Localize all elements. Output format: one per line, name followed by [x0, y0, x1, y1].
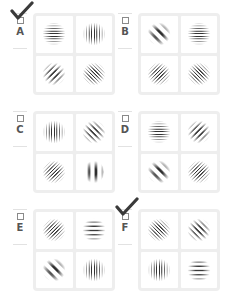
- option-d[interactable]: D: [118, 111, 228, 201]
- gabor-patch-icon: [42, 218, 66, 242]
- stimulus-cell: [36, 212, 73, 249]
- stimulus-cell: [36, 114, 73, 151]
- gabor-patch-icon: [82, 62, 106, 86]
- option-letter: A: [16, 26, 24, 38]
- gabor-patch-icon: [84, 159, 104, 185]
- stimulus-cell: [181, 16, 218, 53]
- gabor-patch-icon: [187, 258, 211, 282]
- gabor-patch-icon: [147, 218, 171, 242]
- gabor-patch-icon: [147, 160, 171, 184]
- stimulus-cell: [181, 212, 218, 249]
- option-checkbox[interactable]: [122, 213, 129, 220]
- gabor-patch-icon: [82, 120, 106, 144]
- stimulus-cell: [76, 16, 113, 53]
- gabor-patch-icon: [147, 22, 171, 46]
- gabor-patch-icon: [42, 62, 66, 86]
- stimulus-cell: [181, 56, 218, 93]
- option-checkbox[interactable]: [17, 115, 24, 122]
- gabor-patch-icon: [82, 22, 106, 46]
- option-checkbox[interactable]: [122, 17, 129, 24]
- option-letter: F: [122, 222, 129, 234]
- gabor-patch-icon: [147, 120, 171, 144]
- option-label: A: [13, 13, 27, 49]
- option-label: F: [118, 209, 132, 245]
- stimulus-cell: [141, 252, 178, 289]
- option-letter: E: [17, 222, 24, 234]
- stimulus-grid[interactable]: [138, 111, 220, 193]
- option-checkbox[interactable]: [17, 17, 24, 24]
- gabor-patch-icon: [187, 218, 211, 242]
- gabor-patch-icon: [187, 120, 211, 144]
- stimulus-cell: [141, 212, 178, 249]
- stimulus-grid[interactable]: [33, 13, 115, 95]
- option-e[interactable]: E: [13, 209, 123, 295]
- option-a[interactable]: A: [13, 13, 123, 103]
- option-label: D: [118, 111, 132, 147]
- option-label: E: [13, 209, 27, 245]
- stimulus-cell: [36, 252, 73, 289]
- stimulus-cell: [76, 252, 113, 289]
- stimulus-cell: [76, 154, 113, 191]
- stimulus-cell: [76, 212, 113, 249]
- option-label: B: [118, 13, 132, 49]
- gabor-patch-icon: [82, 218, 106, 242]
- stimulus-cell: [76, 114, 113, 151]
- option-f[interactable]: F: [118, 209, 228, 295]
- stimulus-cell: [181, 154, 218, 191]
- gabor-patch-icon: [187, 160, 211, 184]
- gabor-patch-icon: [187, 22, 211, 46]
- stimulus-cell: [141, 114, 178, 151]
- option-label: C: [13, 111, 27, 147]
- option-letter: C: [16, 124, 23, 136]
- option-letter: B: [121, 26, 129, 38]
- gabor-patch-icon: [42, 160, 66, 184]
- gabor-patch-icon: [147, 62, 171, 86]
- stimulus-grid[interactable]: [33, 111, 115, 193]
- gabor-patch-icon: [42, 120, 66, 144]
- stimulus-grid[interactable]: [33, 209, 115, 291]
- gabor-patch-icon: [42, 22, 66, 46]
- stimulus-cell: [36, 154, 73, 191]
- stimulus-cell: [36, 56, 73, 93]
- stimulus-cell: [76, 56, 113, 93]
- option-checkbox[interactable]: [122, 115, 129, 122]
- option-b[interactable]: B: [118, 13, 228, 103]
- gabor-patch-icon: [82, 258, 106, 282]
- stimulus-grid[interactable]: [138, 209, 220, 291]
- option-c[interactable]: C: [13, 111, 123, 201]
- stimulus-cell: [141, 154, 178, 191]
- gabor-patch-icon: [187, 62, 211, 86]
- stimulus-cell: [181, 114, 218, 151]
- gabor-patch-icon: [147, 258, 171, 282]
- stimulus-cell: [181, 252, 218, 289]
- stimulus-grid[interactable]: [138, 13, 220, 95]
- gabor-patch-icon: [42, 258, 66, 282]
- option-checkbox[interactable]: [17, 213, 24, 220]
- stimulus-cell: [141, 56, 178, 93]
- stimulus-cell: [141, 16, 178, 53]
- option-letter: D: [121, 124, 129, 136]
- stimulus-cell: [36, 16, 73, 53]
